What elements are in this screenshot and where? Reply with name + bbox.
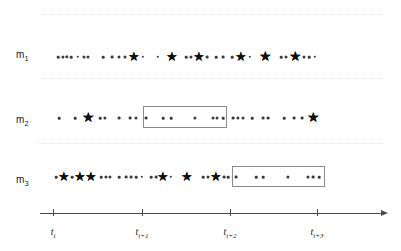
row-label-subscript: 2	[25, 119, 29, 128]
circle-marker	[77, 56, 79, 58]
circle-marker	[255, 176, 258, 179]
circle-marker	[118, 56, 121, 59]
circle-marker	[262, 117, 265, 120]
circle-marker	[307, 176, 310, 179]
circle-marker	[249, 56, 251, 58]
star-marker: ★	[193, 50, 205, 63]
circle-marker	[216, 117, 219, 120]
axis-tick	[230, 209, 231, 216]
circle-marker	[145, 117, 148, 120]
star-marker: ★	[259, 50, 272, 64]
circle-marker	[308, 56, 311, 59]
circle-marker	[293, 117, 296, 120]
circle-marker	[170, 117, 173, 120]
circle-marker	[58, 117, 61, 120]
circle-marker	[215, 56, 218, 59]
star-marker: ★	[157, 170, 169, 183]
circle-marker	[74, 117, 77, 120]
circle-marker	[285, 56, 288, 59]
circle-marker	[55, 176, 58, 179]
row-label-m3: m3	[16, 174, 29, 185]
gridline-m1-m2	[38, 78, 383, 79]
circle-marker	[57, 56, 60, 59]
circle-marker	[99, 117, 102, 120]
circle-marker	[70, 56, 73, 59]
circle-marker	[102, 56, 105, 59]
circle-marker	[303, 56, 306, 59]
circle-marker	[125, 176, 128, 179]
row-label-m2: m2	[16, 114, 29, 125]
circle-marker	[170, 176, 172, 178]
star-marker: ★	[235, 50, 247, 63]
circle-marker	[301, 117, 304, 120]
star-marker: ★	[128, 50, 140, 63]
row-label-m1: m1	[16, 49, 29, 60]
circle-marker	[231, 56, 234, 59]
circle-marker	[236, 116, 239, 119]
circle-marker	[87, 56, 90, 59]
star-marker: ★	[210, 170, 222, 183]
circle-marker	[223, 176, 226, 179]
circle-marker	[135, 176, 138, 179]
star-marker: ★	[181, 170, 193, 183]
tick-label-subscript: i+3	[313, 232, 323, 240]
circle-marker	[262, 176, 265, 179]
axis-tick-label: ti+2	[224, 226, 237, 237]
circle-marker	[100, 176, 103, 179]
axis-tick-label: ti+3	[311, 226, 324, 237]
circle-marker	[314, 56, 316, 58]
circle-marker	[312, 176, 315, 179]
circle-marker	[71, 176, 74, 179]
circle-marker	[103, 116, 106, 119]
axis-tick	[317, 209, 318, 216]
star-marker: ★	[289, 50, 302, 64]
circle-marker	[162, 117, 165, 120]
axis-line	[40, 213, 381, 214]
row-label-letter: m	[16, 114, 25, 125]
star-marker: ★	[82, 111, 95, 125]
event-timeline-figure: m1★★★★★★m2★★m3★★★★★★ titi+1ti+2ti+3	[0, 0, 401, 251]
tick-label-subscript: i+2	[226, 232, 236, 240]
row-label-letter: m	[16, 174, 25, 185]
circle-marker	[206, 56, 209, 59]
circle-marker	[202, 176, 205, 179]
circle-marker	[118, 117, 121, 120]
tick-label-subscript: i+1	[138, 232, 148, 240]
event-track-m3: ★★★★★★	[0, 0, 401, 34]
circle-marker	[222, 56, 225, 59]
circle-marker	[157, 56, 159, 58]
circle-marker	[232, 117, 235, 120]
circle-marker	[124, 56, 127, 59]
circle-marker	[242, 117, 245, 120]
circle-marker	[235, 176, 238, 179]
circle-marker	[61, 55, 64, 58]
axis-tick	[53, 209, 54, 216]
circle-marker	[118, 176, 121, 179]
star-marker: ★	[85, 170, 97, 183]
tick-label-subscript: i	[53, 232, 55, 240]
row-label-letter: m	[16, 49, 25, 60]
circle-marker	[111, 56, 114, 59]
circle-marker	[129, 117, 132, 120]
circle-marker	[83, 56, 86, 59]
row-label-subscript: 1	[25, 54, 29, 63]
circle-marker	[142, 56, 144, 58]
star-marker: ★	[166, 50, 178, 63]
axis-tick-label: ti	[51, 226, 56, 237]
circle-marker	[251, 117, 254, 120]
circle-marker	[65, 55, 68, 58]
circle-marker	[222, 117, 225, 120]
circle-marker	[108, 175, 111, 178]
circle-marker	[141, 176, 143, 178]
circle-marker	[130, 176, 133, 179]
axis-tick	[142, 209, 143, 216]
circle-marker	[280, 56, 283, 59]
row-label-subscript: 3	[25, 179, 29, 188]
circle-marker	[283, 117, 286, 120]
circle-marker	[267, 117, 270, 120]
circle-marker	[318, 176, 321, 179]
circle-marker	[104, 175, 107, 178]
star-marker: ★	[307, 111, 320, 125]
circle-marker	[185, 56, 188, 59]
circle-marker	[227, 176, 230, 179]
